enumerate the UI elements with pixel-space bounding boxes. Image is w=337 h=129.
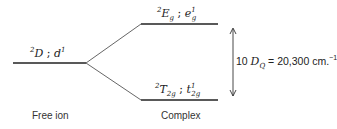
connector-down bbox=[86, 63, 141, 100]
free-ion-caption: Free ion bbox=[32, 110, 69, 121]
eg-term-label: 2Eg ; e1g bbox=[157, 6, 196, 22]
free-ion-term-label: 2D ; d1 bbox=[30, 46, 66, 60]
complex-caption: Complex bbox=[161, 110, 200, 121]
splitting-energy-label: 10 DQ = 20,300 cm.−1 bbox=[236, 54, 337, 70]
connector-up bbox=[86, 24, 141, 63]
t2g-term-label: 2T2g ; t12g bbox=[155, 82, 200, 98]
